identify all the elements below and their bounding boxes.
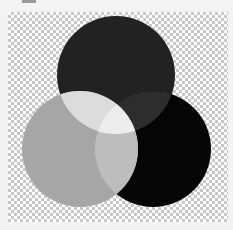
venn-diagram xyxy=(0,0,233,230)
